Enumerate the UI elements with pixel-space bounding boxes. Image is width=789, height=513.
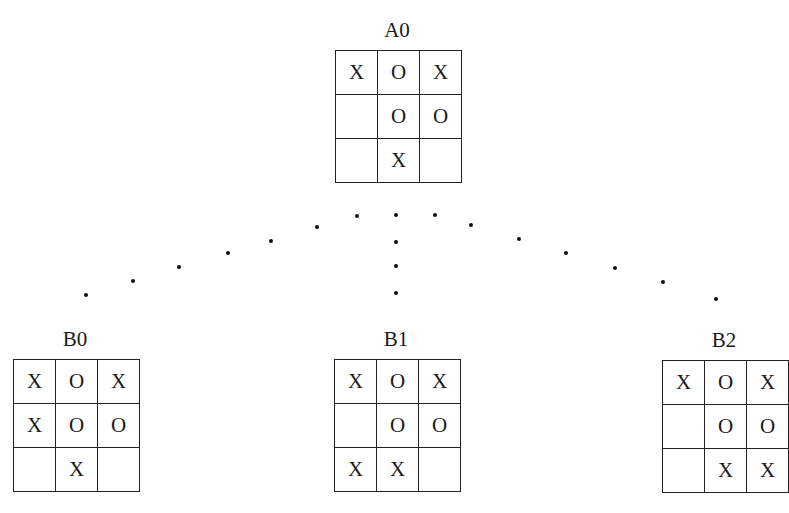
edge-dot [714,297,718,301]
edge-dot [131,279,135,283]
cell: O [705,361,747,405]
cell: X [747,361,789,405]
cell: X [56,448,98,492]
cell [14,448,56,492]
tic-tac-toe-board: X O X O O X X [334,359,461,492]
edge-dot [315,225,319,229]
tic-tac-toe-board: X O X X O O X [13,359,140,492]
cell: X [377,448,419,492]
cell: O [377,360,419,404]
edge-dot [564,251,568,255]
cell: O [56,360,98,404]
cell: X [14,404,56,448]
cell: X [420,51,462,95]
edge-dot [177,265,181,269]
cell: X [747,449,789,493]
edge-dot [394,291,398,295]
tic-tac-toe-board: X O X O O X [335,50,462,183]
edge-dot [84,293,88,297]
cell [663,405,705,449]
edge-dot [661,280,665,284]
edge-dot [517,237,521,241]
node-label: A0 [335,18,459,42]
node-label: B1 [334,327,458,351]
cell: O [747,405,789,449]
cell: X [419,360,461,404]
cell: O [705,405,747,449]
edge-dot [394,264,398,268]
cell: X [335,360,377,404]
cell: X [98,360,140,404]
cell: O [420,95,462,139]
edge-dot [269,239,273,243]
cell: O [377,404,419,448]
edge-dot [394,240,398,244]
edge-dot [394,213,398,217]
cell [419,448,461,492]
cell [98,448,140,492]
cell: X [14,360,56,404]
node-label: B2 [662,328,786,352]
cell [335,404,377,448]
edge-dot [355,214,359,218]
cell: X [705,449,747,493]
cell: O [56,404,98,448]
cell: O [98,404,140,448]
tic-tac-toe-board: X O X O O X X [662,360,789,493]
cell [336,95,378,139]
edge-dot [469,223,473,227]
cell: X [336,51,378,95]
cell [663,449,705,493]
cell: O [378,51,420,95]
cell [336,139,378,183]
cell: X [335,448,377,492]
cell [420,139,462,183]
cell: O [378,95,420,139]
edge-dot [433,213,437,217]
edge-dot [613,266,617,270]
cell: X [663,361,705,405]
edge-dot [226,251,230,255]
cell: X [378,139,420,183]
node-label: B0 [13,327,137,351]
cell: O [419,404,461,448]
